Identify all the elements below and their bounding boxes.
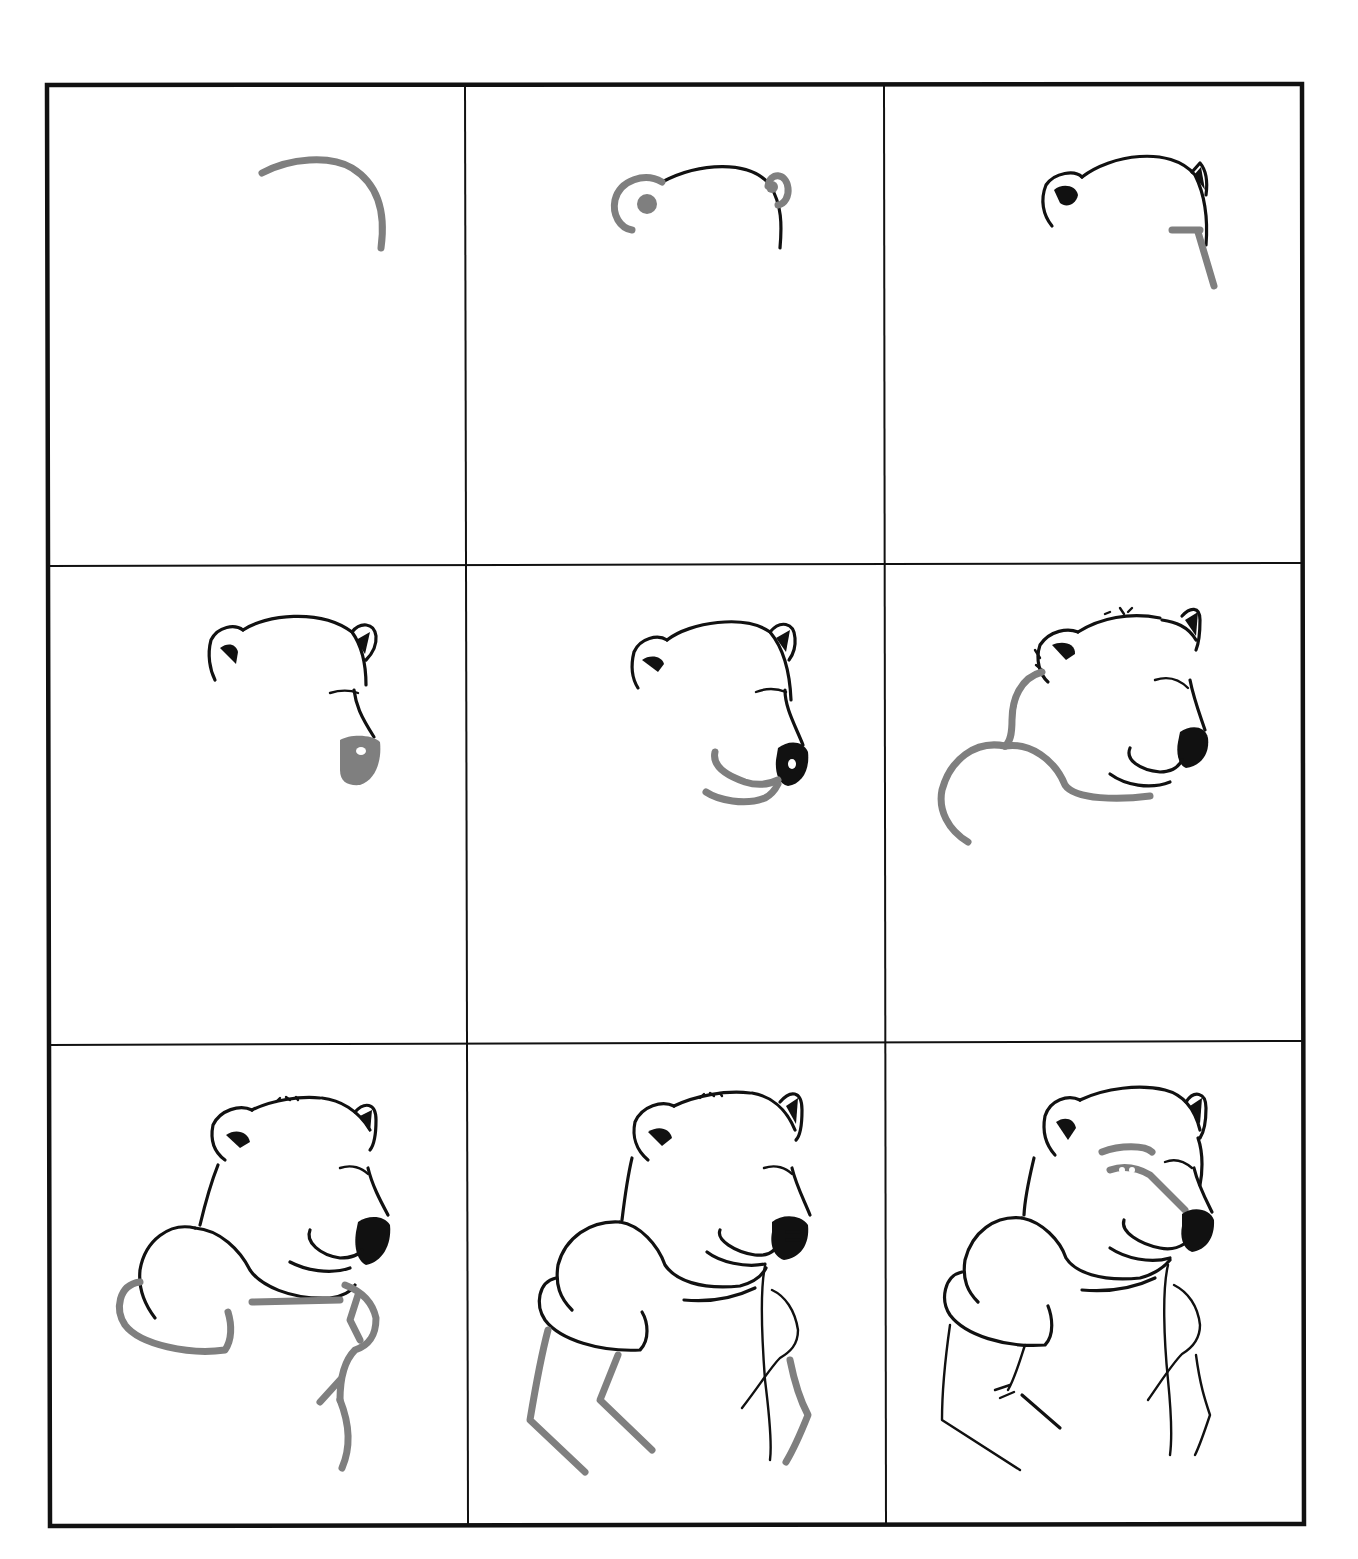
step-3-panel <box>1043 156 1214 286</box>
step-7-panel <box>120 1097 391 1468</box>
step-4-panel <box>209 616 380 785</box>
step-5-panel <box>632 622 808 802</box>
step-6-panel <box>941 608 1208 842</box>
drawing-tutorial-sheet <box>0 0 1358 1559</box>
tutorial-grid <box>0 0 1358 1559</box>
step-9-panel <box>942 1087 1214 1470</box>
step-1-panel <box>262 160 382 248</box>
grid-frame <box>47 84 1304 1526</box>
step-2-panel <box>614 167 788 248</box>
step-8-panel <box>530 1092 810 1472</box>
